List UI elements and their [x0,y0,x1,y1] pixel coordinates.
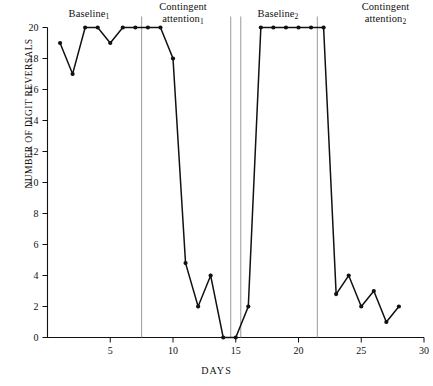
data-point [58,41,62,45]
data-point [209,273,213,277]
phase-label-contingent-attention-1-line1: Contingent [159,1,207,12]
phase-label-contingent-attention-2-line2: attention [365,13,403,24]
data-point [158,25,162,29]
data-point [334,292,338,296]
data-point [83,25,87,29]
data-point [196,304,200,308]
x-tick-label: 10 [168,345,178,356]
x-tick-label: 25 [356,345,366,356]
phase-label-contingent-attention-1-line2: attention [162,13,200,24]
data-point [397,304,401,308]
data-point [146,25,150,29]
data-point [384,320,388,324]
phase-label-baseline-2-subscript: 2 [295,12,299,21]
x-tick-label: 5 [108,345,113,356]
y-tick-label: 4 [34,270,39,281]
data-point [221,335,225,339]
chart-figure: 02468101214161820 51015202530 Baseline1 … [0,0,433,386]
phase-label-baseline-1-text: Baseline [69,8,106,19]
data-point [96,25,100,29]
x-tick-label: 30 [419,345,429,356]
y-tick-label: 6 [34,239,39,250]
data-point [372,289,376,293]
phase-label-contingent-attention-1: Contingent attention1 [131,1,235,26]
line-chart-plot: 02468101214161820 51015202530 [0,0,433,386]
phase-label-contingent-attention-2: Contingent attention2 [338,1,433,26]
phase-label-baseline-1-subscript: 1 [106,12,110,21]
x-tick-label: 20 [294,345,304,356]
phase-label-baseline-1: Baseline1 [52,8,126,20]
data-point [108,41,112,45]
phase-label-contingent-attention-1-subscript: 1 [200,17,204,26]
y-tick-label: 2 [34,301,39,312]
phase-label-baseline-2: Baseline2 [238,8,318,20]
data-point [171,56,175,60]
phase-label-contingent-attention-2-line1: Contingent [362,1,410,12]
x-tick-label: 15 [231,345,241,356]
data-point [322,25,326,29]
data-point [347,273,351,277]
data-point [271,25,275,29]
data-point [121,25,125,29]
data-point [296,25,300,29]
data-point [284,25,288,29]
phase-label-baseline-2-text: Baseline [258,8,295,19]
phase-label-contingent-attention-2-subscript: 2 [402,17,406,26]
data-point [71,72,75,76]
y-tick-label: 0 [34,332,39,343]
data-point [234,335,238,339]
data-point [133,25,137,29]
y-tick-label: 8 [34,208,39,219]
data-point [259,25,263,29]
x-axis-title: DAYS [0,365,433,376]
data-point [183,261,187,265]
data-point [359,304,363,308]
data-point [309,25,313,29]
y-axis-title: NUMBER OF DIGIT REVERSALS [23,24,34,204]
plot-background [0,0,433,386]
data-point [246,304,250,308]
